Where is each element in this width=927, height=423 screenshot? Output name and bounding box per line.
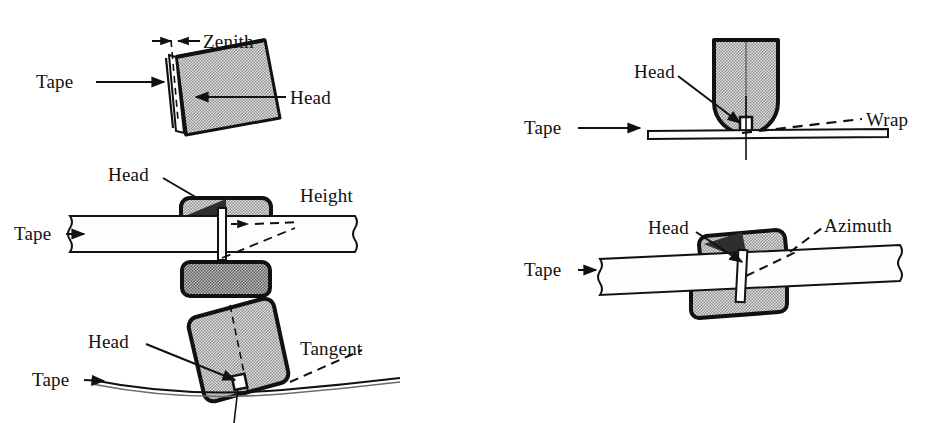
azimuth-parameter-label: Azimuth xyxy=(824,215,892,236)
height-head-label: Head xyxy=(108,164,149,185)
wrap-head-label: Head xyxy=(634,61,675,82)
zenith-tape-label: Tape xyxy=(36,71,73,92)
figure-root: Zenith Tape Head Height Head Tape xyxy=(0,0,927,423)
height-tape-label: Tape xyxy=(14,223,51,244)
wrap-parameter-label: Wrap xyxy=(866,109,908,130)
height-head-lower xyxy=(182,262,270,296)
azimuth-tape-label: Tape xyxy=(524,259,561,280)
wrap-tape-label: Tape xyxy=(524,117,561,138)
tape-head-alignment-figure: Zenith Tape Head Height Head Tape xyxy=(0,0,927,423)
tangent-head-label: Head xyxy=(88,331,129,352)
height-gap-element xyxy=(218,208,226,260)
tangent-gap-element xyxy=(232,374,248,390)
page-background xyxy=(0,0,927,423)
height-tape-band xyxy=(68,216,357,252)
azimuth-head-label: Head xyxy=(648,217,689,238)
tangent-tape-leader xyxy=(84,380,104,381)
height-parameter-label: Height xyxy=(300,185,353,206)
azimuth-gap-element xyxy=(736,250,748,302)
zenith-parameter-label: Zenith xyxy=(203,31,254,52)
tangent-tape-label: Tape xyxy=(32,369,69,390)
zenith-head-body xyxy=(176,40,280,135)
tangent-parameter-label: Tangent xyxy=(300,338,363,359)
zenith-head-label: Head xyxy=(290,87,331,108)
